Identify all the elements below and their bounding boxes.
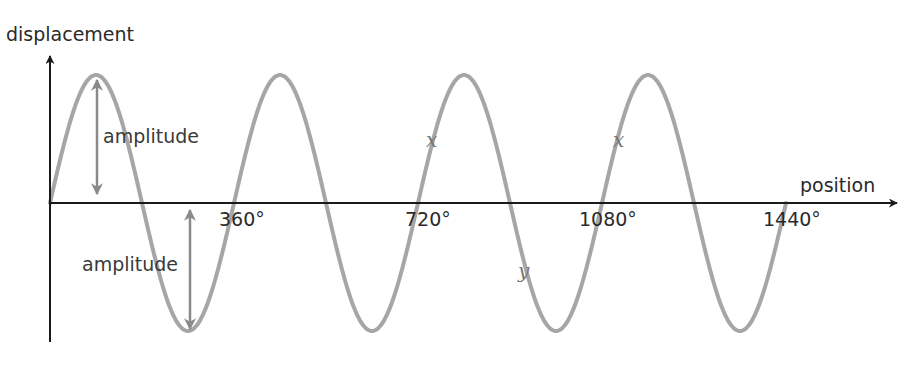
point-label-x-720: x	[426, 128, 437, 152]
point-label-y-900: y	[517, 259, 530, 283]
amplitude-label-top: amplitude	[103, 125, 199, 147]
wave-diagram: displacement position 360° 720° 1080° 14…	[0, 0, 916, 365]
tick-label-720: 720°	[405, 208, 451, 230]
point-label-x-1080: x	[613, 128, 624, 152]
y-axis-label: displacement	[6, 23, 134, 45]
x-axis-label: position	[800, 174, 875, 196]
tick-label-1440: 1440°	[763, 208, 821, 230]
amplitude-label-bottom: amplitude	[82, 253, 178, 275]
tick-label-1080: 1080°	[579, 208, 637, 230]
tick-label-360: 360°	[219, 208, 265, 230]
